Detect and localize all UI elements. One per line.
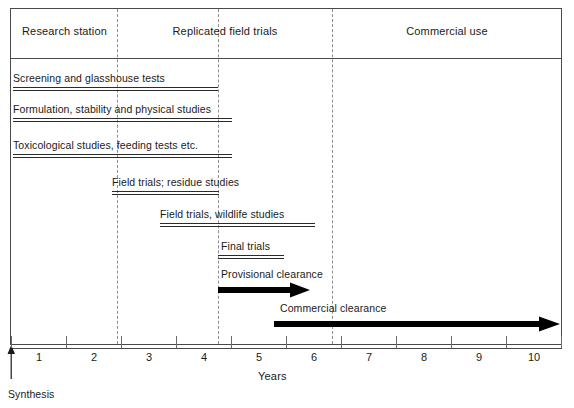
x-axis-title: Years xyxy=(258,370,287,382)
activity-label: Provisional clearance xyxy=(221,268,323,280)
activity-label: Toxicological studies, feeding tests etc… xyxy=(13,139,198,151)
activity-label: Field trials, wildlife studies xyxy=(160,208,284,220)
phase-header-research-station: Research station xyxy=(12,25,117,37)
axis-tick-label-1: 1 xyxy=(19,351,59,363)
activity-label: Final trials xyxy=(221,240,270,252)
commercial-clearance-arrow-icon xyxy=(274,316,562,332)
phase-header-replicated-field-trials: Replicated field trials xyxy=(118,25,332,37)
activity-row-field-trials-wildlife-studies: Field trials, wildlife studies xyxy=(160,208,315,234)
synthesis-label: Synthesis xyxy=(8,388,54,400)
activity-label: Field trials; residue studies xyxy=(112,176,239,188)
phase-header-commercial-use: Commercial use xyxy=(333,25,561,37)
axis-tick-label-7: 7 xyxy=(349,351,389,363)
axis-tick-label-10: 10 xyxy=(514,351,554,363)
activity-row-commercial-clearance: Commercial clearance xyxy=(274,302,564,332)
axis-tick-9 xyxy=(506,336,507,348)
axis-tick-5 xyxy=(286,336,287,348)
activity-row-provisional-clearance: Provisional clearance xyxy=(218,268,318,298)
axis-tick-label-5: 5 xyxy=(239,351,279,363)
axis-tick-label-2: 2 xyxy=(74,351,114,363)
axis-tick-4 xyxy=(231,336,232,348)
phase-divider-3 xyxy=(332,9,333,344)
axis-tick-label-8: 8 xyxy=(404,351,444,363)
activity-row-field-trials-residue-studies: Field trials; residue studies xyxy=(112,176,222,202)
activity-row-final-trials: Final trials xyxy=(218,240,286,266)
axis-tick-label-6: 6 xyxy=(294,351,334,363)
activity-bar xyxy=(13,154,232,158)
pesticide-development-timeline-chart: Research station Replicated field trials… xyxy=(0,0,574,408)
activity-bar xyxy=(160,223,315,227)
synthesis-arrow-icon xyxy=(7,345,16,379)
axis-tick-6 xyxy=(341,336,342,348)
axis-tick-7 xyxy=(396,336,397,348)
axis-tick-1 xyxy=(66,336,67,348)
activity-label: Formulation, stability and physical stud… xyxy=(13,103,211,115)
activity-row-screening-and-glasshouse-tests: Screening and glasshouse tests xyxy=(13,72,223,98)
activity-bar xyxy=(13,118,232,122)
x-axis-line xyxy=(11,348,562,349)
axis-tick-3 xyxy=(176,336,177,348)
axis-tick-2 xyxy=(121,336,122,348)
axis-tick-0 xyxy=(11,336,12,348)
activity-bar xyxy=(218,255,284,259)
activity-label: Screening and glasshouse tests xyxy=(13,72,165,84)
header-separator-rule xyxy=(10,58,562,59)
axis-tick-8 xyxy=(451,336,452,348)
provisional-clearance-arrow-icon xyxy=(218,282,313,298)
axis-tick-label-9: 9 xyxy=(459,351,499,363)
activity-bar xyxy=(13,87,218,91)
activity-row-formulation-stability-and-physical-studies: Formulation, stability and physical stud… xyxy=(13,103,233,129)
activity-label: Commercial clearance xyxy=(280,302,386,314)
axis-tick-label-3: 3 xyxy=(129,351,169,363)
activity-bar xyxy=(112,191,219,195)
axis-tick-label-4: 4 xyxy=(184,351,224,363)
activity-row-toxicological-studies-feeding-tests: Toxicological studies, feeding tests etc… xyxy=(13,139,233,165)
axis-tick-10 xyxy=(561,336,562,348)
